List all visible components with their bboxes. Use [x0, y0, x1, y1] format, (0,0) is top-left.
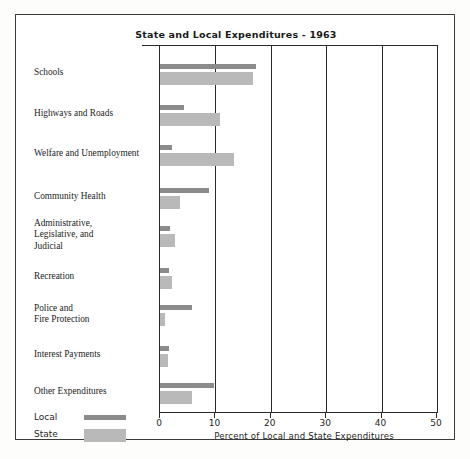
gridline-40 [382, 46, 383, 412]
category-label: Interest Payments [34, 349, 154, 361]
bar-local [160, 64, 256, 69]
category-label-line: Community Health [34, 191, 154, 203]
bar-local [160, 188, 209, 193]
category-label-line: Interest Payments [34, 349, 154, 361]
bar-state [160, 313, 165, 326]
category-label: Schools [34, 67, 154, 79]
category-label: Administrative,Legislative, andJudicial [34, 218, 154, 253]
bar-local [160, 226, 170, 231]
bar-state [160, 276, 172, 289]
x-axis-title: Percent of Local and State Expenditures [159, 431, 449, 441]
x-tick-label: 40 [375, 418, 386, 428]
category-label: Other Expenditures [34, 386, 154, 398]
legend-label-state: State [34, 429, 58, 439]
chart-legend: Local State [34, 411, 154, 445]
bar-local [160, 383, 214, 388]
bar-local [160, 346, 169, 351]
category-label-line: Other Expenditures [34, 386, 154, 398]
chart-title: State and Local Expenditures - 1963 [16, 29, 456, 40]
x-tick-label: 0 [156, 418, 162, 428]
legend-item-local: Local [34, 411, 154, 428]
category-label: Police andFire Protection [34, 303, 154, 326]
plot-area [159, 45, 438, 413]
bar-state [160, 234, 175, 247]
bar-state [160, 196, 180, 209]
bar-local [160, 105, 184, 110]
category-label-line: Administrative, [34, 218, 154, 230]
category-label-line: Welfare and Unemployment [34, 148, 154, 160]
legend-swatch-state [84, 429, 126, 442]
category-label-line: Recreation [34, 271, 154, 283]
category-label-line: Schools [34, 67, 154, 79]
legend-item-state: State [34, 428, 154, 445]
category-label: Recreation [34, 271, 154, 283]
legend-label-local: Local [34, 412, 57, 422]
legend-swatch-local [84, 415, 126, 420]
gridline-20 [271, 46, 272, 412]
bar-local [160, 305, 192, 310]
gridline-10 [215, 46, 216, 412]
category-label: Welfare and Unemployment [34, 148, 154, 160]
x-axis-ticks: 01020304050 [159, 413, 438, 431]
figure-frame: State and Local Expenditures - 1963 Scho… [15, 14, 455, 440]
figure-page: State and Local Expenditures - 1963 Scho… [0, 0, 470, 459]
category-label-line: Fire Protection [34, 314, 154, 326]
bar-state [160, 113, 220, 126]
category-label-line: Highways and Roads [34, 108, 154, 120]
x-tick-label: 10 [209, 418, 220, 428]
x-tick-label: 30 [319, 418, 330, 428]
bar-state [160, 72, 253, 85]
x-tick-label: 50 [430, 418, 441, 428]
bar-state [160, 354, 168, 367]
bar-local [160, 145, 172, 150]
category-label: Community Health [34, 191, 154, 203]
category-label-line: Police and [34, 303, 154, 315]
bar-local [160, 268, 169, 273]
bar-state [160, 153, 234, 166]
category-label: Highways and Roads [34, 108, 154, 120]
category-label-line: Judicial [34, 241, 154, 253]
x-tick-label: 20 [264, 418, 275, 428]
gridline-30 [326, 46, 327, 412]
bar-state [160, 391, 192, 404]
category-label-line: Legislative, and [34, 229, 154, 241]
